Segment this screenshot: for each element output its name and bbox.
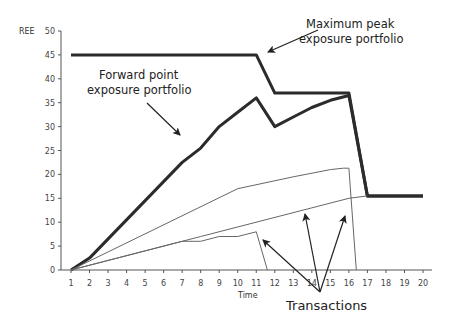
x-tick-label: 18	[381, 279, 391, 288]
y-tick-label: 5	[50, 242, 55, 251]
exposure-chart: 0510152025303540455012345678910111213141…	[0, 0, 456, 329]
x-tick-label: 11	[251, 279, 261, 288]
series-line-transaction-a	[71, 168, 356, 270]
x-tick-label: 4	[124, 279, 129, 288]
y-tick-label: 10	[45, 218, 55, 227]
x-axis-label: Time	[237, 291, 258, 300]
annotation-transactions: Transactions	[285, 298, 367, 313]
y-tick-label: 0	[50, 266, 55, 275]
y-tick-label: 45	[45, 51, 55, 60]
x-tick-label: 2	[87, 279, 92, 288]
x-tick-label: 15	[325, 279, 335, 288]
y-tick-label: 20	[45, 170, 55, 179]
annotation-max-peak-line1: Maximum peak	[306, 17, 395, 31]
x-tick-label: 5	[143, 279, 148, 288]
series-line-transaction-c	[71, 232, 267, 270]
axes: 0510152025303540455012345678910111213141…	[45, 27, 432, 288]
y-axis-label: REE	[19, 27, 35, 36]
annotation-forward-line1: Forward point	[99, 68, 179, 82]
x-tick-label: 19	[399, 279, 409, 288]
x-tick-label: 13	[288, 279, 298, 288]
x-tick-label: 8	[198, 279, 203, 288]
x-tick-label: 12	[270, 279, 280, 288]
annotation-max-peak-line2: exposure portfolio	[299, 32, 404, 46]
y-tick-label: 40	[45, 75, 55, 84]
y-tick-label: 25	[45, 147, 55, 156]
y-tick-label: 30	[45, 123, 55, 132]
y-tick-label: 15	[45, 194, 55, 203]
x-tick-label: 17	[362, 279, 372, 288]
x-tick-label: 1	[68, 279, 73, 288]
x-tick-label: 16	[344, 279, 354, 288]
x-tick-label: 3	[106, 279, 111, 288]
x-tick-label: 10	[233, 279, 243, 288]
y-tick-label: 35	[45, 99, 55, 108]
arrow-forward-point	[147, 103, 180, 135]
x-tick-label: 14	[307, 279, 317, 288]
x-tick-label: 7	[180, 279, 185, 288]
y-tick-label: 50	[45, 27, 55, 36]
x-tick-label: 6	[161, 279, 166, 288]
annotation-forward-line2: exposure portfolio	[87, 83, 192, 97]
x-tick-label: 9	[217, 279, 222, 288]
x-tick-label: 20	[418, 279, 428, 288]
